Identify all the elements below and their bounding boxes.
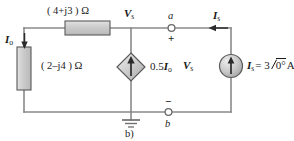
terminal-a-polarity: + xyxy=(168,33,174,44)
terminal-b-label: b xyxy=(165,119,170,130)
terminal-b-symbol xyxy=(165,109,172,116)
terminal-a-label: a xyxy=(168,11,173,22)
current-io-sub: o xyxy=(9,38,13,47)
current-is-label: Is xyxy=(213,10,220,23)
current-io-label: Io xyxy=(5,34,13,47)
dependent-source-coeff: 0.5 xyxy=(150,60,164,72)
voltage-vs-mid-sub: s xyxy=(190,64,193,73)
dependent-source-label: 0.5Io xyxy=(150,61,172,74)
figure-caption: b) xyxy=(125,129,134,140)
dependent-current-source-symbol xyxy=(117,53,145,81)
angle-icon xyxy=(271,59,277,70)
current-is-sub: s xyxy=(217,14,220,23)
independent-source-phasor: 0° xyxy=(276,58,286,71)
shunt-impedance-label: ( 2–j4 ) Ω xyxy=(41,61,82,72)
terminal-a-symbol xyxy=(168,25,175,32)
current-arrow-is xyxy=(209,25,229,31)
voltage-vs-mid-label: Vs xyxy=(183,60,193,73)
terminal-b-polarity: − xyxy=(165,96,171,107)
dependent-source-sub: o xyxy=(168,65,172,74)
circuit-diagram: ( 4+j3 ) Ω ( 2–j4 ) Ω Io Vs a + Is 0.5Io… xyxy=(0,0,294,141)
series-impedance-symbol xyxy=(65,21,110,35)
shunt-impedance-symbol xyxy=(17,47,31,90)
independent-source-value: = 3 xyxy=(255,59,269,71)
independent-source-sub: s xyxy=(251,64,254,73)
independent-current-source-symbol xyxy=(220,55,243,78)
independent-source-label: Is= 30°A xyxy=(247,60,294,73)
voltage-vs-top-sub: s xyxy=(131,12,134,21)
voltage-vs-top-label: Vs xyxy=(124,8,134,21)
independent-source-unit: A xyxy=(287,59,294,71)
ground-symbol xyxy=(122,120,140,127)
phasor-angle-group: 0° xyxy=(271,60,286,71)
series-impedance-label: ( 4+j3 ) Ω xyxy=(47,6,89,17)
